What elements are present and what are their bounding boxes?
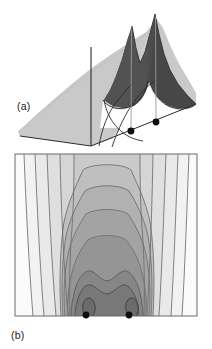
figure-container: (a) (b) bbox=[0, 0, 212, 349]
panel-b-contour-plot bbox=[0, 0, 212, 349]
panel-label-a: (a) bbox=[17, 101, 30, 112]
contour-marker-point-1 bbox=[83, 312, 90, 319]
contour-bands-group bbox=[15, 154, 197, 316]
panel-label-b: (b) bbox=[11, 330, 24, 341]
contour-marker-point-2 bbox=[126, 312, 133, 319]
contour-plot-svg bbox=[0, 0, 212, 349]
